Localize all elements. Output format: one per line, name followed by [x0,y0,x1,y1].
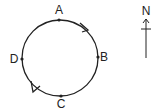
circle-diagram: A B C D N [0,0,156,109]
north-arrow-icon [141,19,151,58]
compass-label-n: N [142,4,151,18]
label-d: D [10,52,19,66]
label-b: B [100,50,108,64]
label-c: C [57,97,66,109]
arrow-clockwise-top-right-icon [80,23,88,32]
label-a: A [55,3,63,17]
point-d [20,57,23,60]
circular-path [22,20,98,96]
point-a [57,18,60,21]
